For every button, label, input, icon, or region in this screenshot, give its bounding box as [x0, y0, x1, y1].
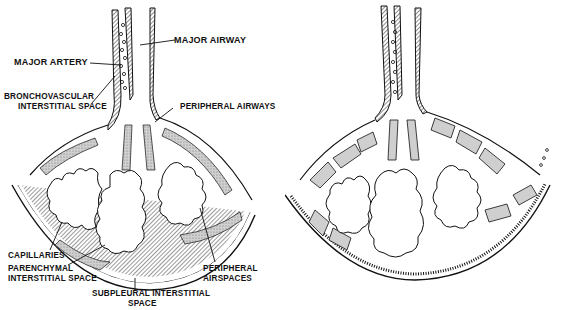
lobule-diagram-thickened: [285, 0, 570, 310]
label-subpleural-line2: SPACE: [128, 299, 157, 309]
label-subpleural-line1: SUBPLEURAL INTERSTITIAL: [92, 289, 210, 299]
lobule-diagram-normal: MAJOR ARTERY MAJOR AIRWAY BRONCHOVASCULA…: [0, 0, 285, 310]
label-bronchovascular-line1: BRONCHOVASCULAR: [4, 92, 94, 102]
label-major-airway: MAJOR AIRWAY: [174, 35, 246, 45]
label-capillaries: CAPILLARIES: [8, 251, 65, 261]
label-peripheral-airspaces-line1: PERIPHERAL: [203, 264, 258, 274]
label-major-artery: MAJOR ARTERY: [14, 57, 88, 67]
lobule-illustration-thickened: [285, 0, 570, 310]
label-peripheral-airspaces-line2: AIRSPACES: [203, 274, 252, 284]
label-peripheral-airways: PERIPHERAL AIRWAYS: [180, 102, 276, 112]
label-parenchymal-line2: INTERSTITIAL SPACE: [8, 274, 97, 284]
label-parenchymal-line1: PARENCHYMAL: [8, 264, 73, 274]
label-bronchovascular-line2: INTERSTITIAL SPACE: [18, 102, 107, 112]
